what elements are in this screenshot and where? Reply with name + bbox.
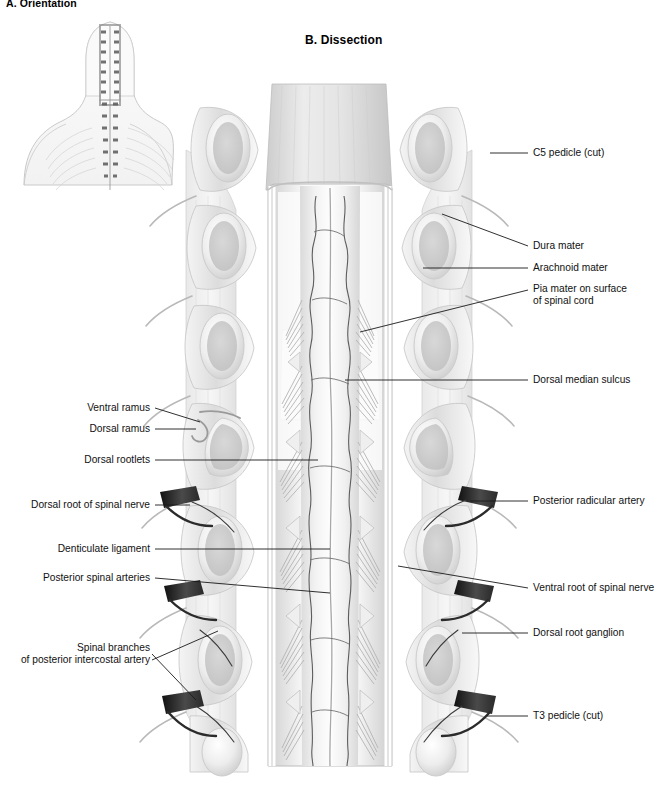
label-dorsal-root-of-spinal-nerve: Dorsal root of spinal nerve — [31, 499, 150, 511]
label-of-posterior-intercostal-artery: of posterior intercostal artery — [21, 654, 150, 666]
neck-soft-tissue — [266, 84, 392, 190]
label-c5-pedicle-cut: C5 pedicle (cut) — [533, 147, 604, 159]
label-posterior-spinal-arteries: Posterior spinal arteries — [43, 572, 150, 584]
label-dorsal-rootlets: Dorsal rootlets — [84, 454, 150, 466]
label-ventral-ramus: Ventral ramus — [87, 402, 150, 414]
dissection-drawing — [140, 84, 518, 776]
orientation-inset-drawing — [24, 22, 174, 190]
panel-a-title: A. Orientation — [6, 0, 77, 9]
figure-canvas: A. Orientation B. Dissection C5 pedicle … — [0, 0, 658, 785]
label-t3-pedicle-cut: T3 pedicle (cut) — [533, 710, 603, 722]
panel-b-title: B. Dissection — [305, 33, 382, 47]
label-ventral-root-of-spinal-nerve: Ventral root of spinal nerve — [533, 582, 654, 594]
label-arachnoid-mater: Arachnoid mater — [533, 262, 608, 274]
label-dorsal-root-ganglion: Dorsal root ganglion — [533, 627, 624, 639]
label-posterior-radicular-artery: Posterior radicular artery — [533, 495, 645, 507]
label-denticulate-ligament: Denticulate ligament — [58, 543, 150, 555]
label-pia-mater-on-surface: Pia mater on surface — [533, 283, 627, 295]
label-dorsal-ramus: Dorsal ramus — [89, 423, 150, 435]
anatomical-illustration — [0, 0, 658, 785]
label-dura-mater: Dura mater — [533, 240, 584, 252]
label-of-spinal-cord: of spinal cord — [533, 295, 594, 307]
label-dorsal-median-sulcus: Dorsal median sulcus — [533, 374, 630, 386]
label-spinal-branches: Spinal branches — [77, 642, 150, 654]
